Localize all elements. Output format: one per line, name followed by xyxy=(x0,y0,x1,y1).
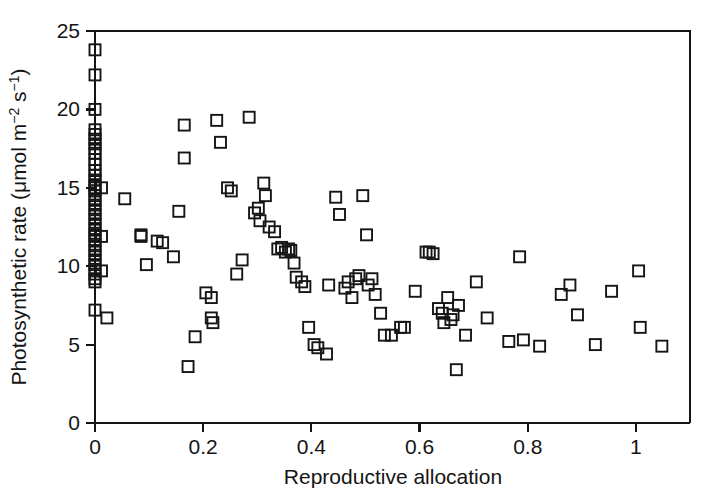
y-tick-label: 10 xyxy=(57,254,80,277)
data-point-marker xyxy=(226,185,237,196)
data-point-marker xyxy=(635,322,646,333)
data-point-marker xyxy=(471,276,482,287)
x-tick-label: 0 xyxy=(89,435,101,458)
plot-canvas: 00.20.40.60.81 0510152025 Reproductive a… xyxy=(0,0,710,500)
y-tick-label: 20 xyxy=(57,97,80,120)
data-point-marker xyxy=(633,265,644,276)
data-point-marker xyxy=(101,312,112,323)
data-point-marker xyxy=(503,336,514,347)
data-point-marker xyxy=(518,334,529,345)
scatter-plot-figure: 00.20.40.60.81 0510152025 Reproductive a… xyxy=(0,0,710,500)
data-points-layer xyxy=(90,44,668,375)
data-point-marker xyxy=(451,364,462,375)
data-point-marker xyxy=(222,182,233,193)
data-point-marker xyxy=(258,178,269,189)
data-point-marker xyxy=(606,286,617,297)
x-tick-label: 1 xyxy=(630,435,642,458)
y-tick-label: 0 xyxy=(68,411,80,434)
data-point-marker xyxy=(231,269,242,280)
data-point-marker xyxy=(361,229,372,240)
data-point-marker xyxy=(141,259,152,270)
data-point-marker xyxy=(334,209,345,220)
y-axis-title: Photosynthetic rate (μmol m−2 s−1) xyxy=(6,68,30,385)
data-point-marker xyxy=(656,341,667,352)
data-point-marker xyxy=(590,339,601,350)
data-point-marker xyxy=(211,115,222,126)
data-point-marker xyxy=(309,339,320,350)
axis-frame xyxy=(95,31,690,423)
data-point-marker xyxy=(168,251,179,262)
data-point-marker xyxy=(303,322,314,333)
data-point-marker xyxy=(190,331,201,342)
x-axis-title: Reproductive allocation xyxy=(284,465,502,488)
data-point-marker xyxy=(183,361,194,372)
data-point-marker xyxy=(410,286,421,297)
data-point-marker xyxy=(173,206,184,217)
data-point-marker xyxy=(482,312,493,323)
data-point-marker xyxy=(179,120,190,131)
data-point-marker xyxy=(323,280,334,291)
data-point-marker xyxy=(119,193,130,204)
y-tick-label: 5 xyxy=(68,333,80,356)
data-point-marker xyxy=(442,292,453,303)
data-point-marker xyxy=(237,254,248,265)
x-tick-label: 0.8 xyxy=(513,435,542,458)
x-tick-label: 0.4 xyxy=(297,435,327,458)
data-point-marker xyxy=(514,251,525,262)
data-point-marker xyxy=(399,322,410,333)
data-point-marker xyxy=(375,308,386,319)
data-point-marker xyxy=(572,309,583,320)
data-point-marker xyxy=(260,190,271,201)
x-tick-label: 0.6 xyxy=(405,435,434,458)
y-tick-label: 25 xyxy=(57,19,80,42)
data-point-marker xyxy=(215,137,226,148)
y-tick-label: 15 xyxy=(57,176,80,199)
data-point-marker xyxy=(350,273,361,284)
x-axis-ticks: 00.20.40.60.81 xyxy=(89,423,642,458)
data-point-marker xyxy=(379,330,390,341)
data-point-marker xyxy=(330,192,341,203)
data-point-marker xyxy=(460,330,471,341)
data-point-marker xyxy=(96,182,107,193)
data-point-marker xyxy=(289,258,300,269)
data-point-marker xyxy=(357,190,368,201)
data-point-marker xyxy=(534,341,545,352)
x-tick-label: 0.2 xyxy=(189,435,218,458)
data-point-marker xyxy=(244,112,255,123)
data-point-marker xyxy=(179,153,190,164)
